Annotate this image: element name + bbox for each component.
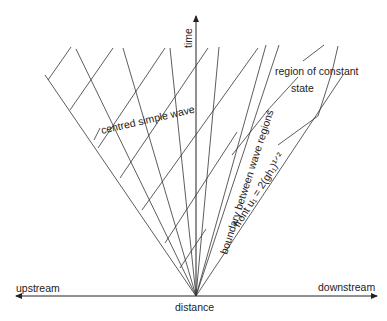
downstream-label: downstream xyxy=(318,281,375,293)
fan-label-leader xyxy=(94,128,100,140)
cross-characteristics xyxy=(48,45,338,268)
characteristics-diagram: time distance upstream downstream centre… xyxy=(0,0,387,321)
time-label: time xyxy=(182,28,194,48)
constant-region-label-2: state xyxy=(291,82,314,94)
distance-label: distance xyxy=(175,301,214,313)
constant-region-label-1: region of constant xyxy=(275,65,359,77)
upstream-label: upstream xyxy=(16,282,60,294)
